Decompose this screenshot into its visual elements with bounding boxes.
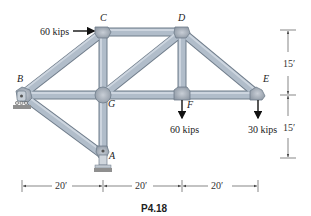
truss-members [20, 30, 259, 155]
joint-label-G: G [108, 98, 115, 109]
joint-C-plate [95, 27, 111, 38]
joint-label-F: F [186, 99, 194, 110]
vertical-dimensions [280, 30, 296, 158]
dim-label-h1: 20′ [55, 180, 67, 191]
joint-label-B: B [17, 73, 23, 84]
dim-label-v1: 15′ [283, 58, 295, 69]
joint-D-plate [174, 27, 190, 38]
joint-label-A: A [108, 150, 116, 161]
figure-caption: P4.18 [141, 203, 168, 214]
dim-label-h2: 20′ [135, 180, 147, 191]
dim-label-v2: 15′ [283, 122, 295, 133]
load-label-C: 60 kips [40, 26, 69, 37]
truss-diagram: 60 kips 60 kips 30 kips C D E F G B A 20… [0, 0, 311, 216]
joint-label-C: C [100, 12, 107, 23]
dim-label-h3: 20′ [211, 180, 223, 191]
joint-label-E: E [262, 73, 269, 84]
load-label-E: 30 kips [248, 124, 277, 135]
load-label-F: 60 kips [170, 124, 199, 135]
joint-label-D: D [177, 12, 186, 23]
